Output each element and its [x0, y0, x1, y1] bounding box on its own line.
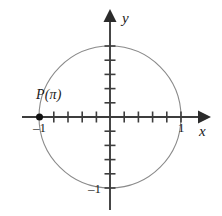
x-axis-tick-label-neg-one: –1: [33, 121, 46, 134]
unit-circle-figure: y x P(π) –1 1 –1: [0, 0, 222, 216]
y-axis-label: y: [122, 11, 129, 26]
x-axis-label: x: [199, 124, 206, 139]
x-axis-tick-label-pos-one: 1: [178, 121, 185, 134]
point-label-p-pi: P(π): [36, 88, 62, 102]
y-axis-tick-label-neg-one: –1: [88, 182, 101, 195]
y-axis-arrowhead-icon: [104, 9, 117, 22]
unit-circle-svg: [0, 0, 222, 216]
x-axis-arrowhead-icon: [198, 111, 211, 124]
